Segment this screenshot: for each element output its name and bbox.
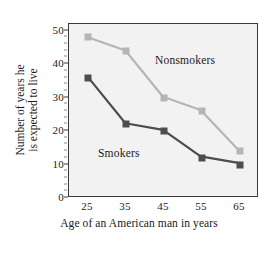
- y-axis-minor-tick-mark: [64, 183, 67, 184]
- y-axis-minor-tick-mark: [64, 136, 67, 137]
- y-axis-minor-tick-mark: [64, 56, 67, 57]
- data-point-marker: [237, 161, 244, 168]
- y-axis-tick-label: 50: [53, 24, 64, 36]
- y-axis-title-line-2: is expected to live: [27, 23, 40, 197]
- x-axis-tick-label: 55: [195, 200, 206, 212]
- data-point-marker: [85, 34, 92, 41]
- y-axis-minor-tick-mark: [64, 49, 67, 50]
- data-point-marker: [199, 108, 206, 115]
- y-axis-title-line-1: Number of years he: [14, 23, 27, 197]
- series-lines: [69, 24, 257, 196]
- x-axis-title: Age of an American man in years: [0, 217, 278, 229]
- y-axis-minor-tick-mark: [64, 110, 67, 111]
- data-point-marker: [199, 154, 206, 161]
- y-axis-minor-tick-mark: [64, 36, 67, 37]
- y-axis-minor-tick-mark: [64, 116, 67, 117]
- y-axis-tick-label: 10: [53, 158, 64, 170]
- y-axis-minor-tick-mark: [64, 83, 67, 84]
- y-axis-minor-tick-mark: [64, 103, 67, 104]
- chart-figure: 01020304050 Number of years he is expect…: [0, 0, 278, 256]
- x-axis-tick-label: 65: [233, 200, 244, 212]
- y-axis-tick-label: 40: [53, 57, 64, 69]
- y-axis-minor-tick-mark: [64, 150, 67, 151]
- y-axis-tick-label: 20: [53, 124, 64, 136]
- x-axis-tick-labels: 2535455565: [68, 200, 258, 216]
- data-point-marker: [85, 74, 92, 81]
- y-axis-minor-tick-mark: [64, 89, 67, 90]
- y-axis-title: Number of years he is expected to live: [14, 23, 44, 197]
- plot-inner: Nonsmokers Smokers: [69, 24, 257, 196]
- series-annotation-smokers: Smokers: [98, 147, 140, 159]
- y-axis-tick-label: 30: [53, 91, 64, 103]
- y-axis-minor-tick-mark: [64, 69, 67, 70]
- x-axis-tick-label: 35: [119, 200, 130, 212]
- x-axis-tick-label: 45: [157, 200, 168, 212]
- y-axis-minor-tick-mark: [64, 190, 67, 191]
- y-axis-minor-tick-mark: [64, 170, 67, 171]
- y-axis-minor-tick-mark: [64, 76, 67, 77]
- y-axis-minor-tick-mark: [64, 123, 67, 124]
- data-point-marker: [123, 121, 130, 128]
- data-point-marker: [123, 47, 130, 54]
- plot-area: Nonsmokers Smokers: [68, 23, 258, 197]
- data-point-marker: [161, 94, 168, 101]
- y-axis-minor-tick-mark: [64, 43, 67, 44]
- y-axis-minor-tick-mark: [64, 156, 67, 157]
- y-axis-minor-tick-mark: [64, 143, 67, 144]
- data-point-marker: [161, 128, 168, 135]
- x-axis-tick-label: 25: [81, 200, 92, 212]
- y-axis-minor-tick-mark: [64, 176, 67, 177]
- series-annotation-nonsmokers: Nonsmokers: [155, 54, 215, 66]
- data-point-marker: [237, 148, 244, 155]
